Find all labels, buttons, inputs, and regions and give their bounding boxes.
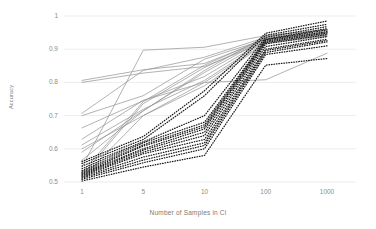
y-axis-tick-label: 0.7 — [36, 112, 58, 119]
y-axis-tick-label: 0.5 — [36, 178, 58, 185]
data-line — [82, 34, 327, 176]
data-line — [82, 33, 327, 153]
y-axis-tick-label: 0.8 — [36, 78, 58, 85]
x-axis-tick-label: 100 — [251, 188, 281, 195]
data-line — [82, 35, 327, 83]
data-line — [82, 42, 327, 178]
y-axis-tick-label: 1 — [36, 12, 58, 19]
x-axis-tick-label: 1 — [67, 188, 97, 195]
y-axis-label: Accuracy — [8, 62, 14, 132]
dotted-black-series-group — [82, 21, 327, 181]
accuracy-vs-samples-chart: Accuracy 0.50.60.70.80.91 15101001000 Nu… — [0, 0, 376, 229]
y-axis-tick-label: 0.6 — [36, 145, 58, 152]
y-axis-label-wrap: Accuracy — [2, 0, 18, 229]
data-line — [82, 30, 327, 113]
x-axis-tick-label: 10 — [190, 188, 220, 195]
x-axis-tick-label: 5 — [128, 188, 158, 195]
x-axis-tick-label: 1000 — [312, 188, 342, 195]
y-axis-tick-label: 0.9 — [36, 45, 58, 52]
x-axis-label: Number of Samples in Ci — [0, 209, 376, 216]
data-line — [82, 33, 327, 173]
gridlines — [64, 16, 356, 182]
